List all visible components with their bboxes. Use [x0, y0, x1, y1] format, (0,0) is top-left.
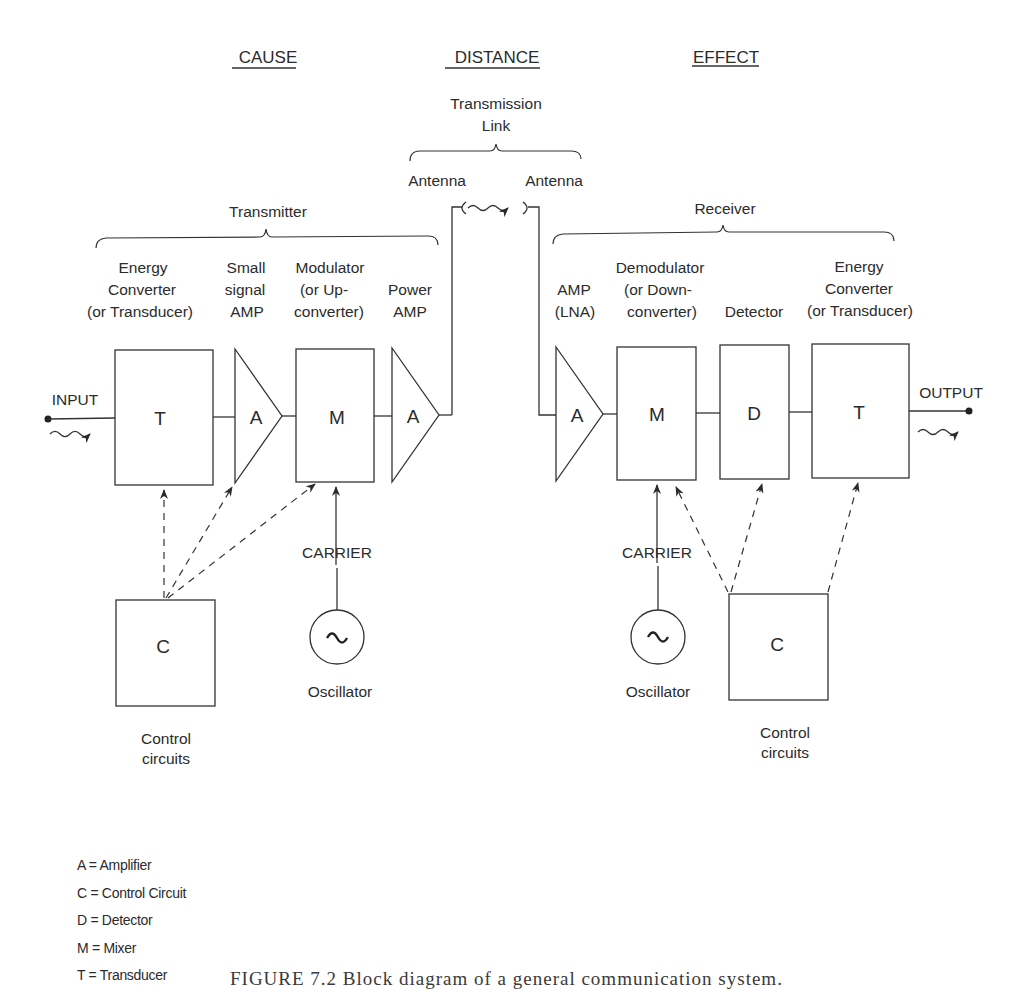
rx-control-symbol: C [770, 634, 784, 655]
transmitter: Transmitter Energy Converter (or Transdu… [45, 203, 453, 767]
tx-power-amp-symbol: A [407, 406, 420, 427]
wireless-wave-icon [468, 206, 508, 211]
rx-transducer-symbol: T [853, 402, 865, 423]
rx-control-label-line2: circuits [761, 744, 809, 761]
transmitter-brace [96, 229, 438, 248]
legend: A = Amplifier C = Control Circuit D = De… [77, 852, 186, 990]
rx-amp-line1: AMP [557, 281, 591, 298]
antenna-left-label: Antenna [408, 172, 466, 189]
output-wave-icon [918, 430, 958, 435]
tx-mixer-symbol: M [329, 407, 345, 428]
rx-demodulator-line3: converter) [627, 303, 697, 320]
tx-small-amp-line1: Small [227, 259, 266, 276]
antenna-left-icon [462, 202, 466, 214]
receiver: Receiver AMP (LNA) Demodulator (or Down-… [553, 200, 983, 761]
tx-energy-converter-line2: Converter [108, 281, 176, 298]
antenna-right-icon [523, 202, 527, 214]
transmission-link: Transmission Link Antenna Antenna [408, 95, 583, 415]
rx-oscillator-sine-icon [648, 633, 668, 642]
tx-control-links [164, 484, 315, 598]
tx-power-amp-line1: Power [388, 281, 432, 298]
rx-energy-converter-line2: Converter [825, 280, 893, 297]
tx-modulator-line2: (or Up- [300, 281, 348, 298]
header-effect-label: EFFECT [693, 48, 759, 67]
rx-carrier-text: CARRIER [622, 544, 692, 561]
tx-control-symbol: C [156, 636, 170, 657]
rx-mixer-symbol: M [649, 404, 665, 425]
rx-energy-converter-line3: (or Transducer) [807, 302, 913, 319]
legend-item-transducer: T = Transducer [77, 962, 186, 990]
tx-small-amp-symbol: A [250, 407, 263, 428]
rx-control-links [676, 483, 858, 592]
rx-detector-label: Detector [725, 303, 784, 320]
legend-item-detector: D = Detector [77, 907, 186, 935]
tx-carrier-text: CARRIER [302, 544, 372, 561]
tx-modulator-line3: converter) [294, 303, 364, 320]
input-label: INPUT [52, 391, 99, 408]
receiver-brace [553, 225, 894, 244]
rx-amp-symbol: A [571, 405, 584, 426]
transmission-link-brace [410, 144, 581, 161]
input-wave-icon [50, 432, 90, 437]
receiver-title: Receiver [694, 200, 755, 217]
tx-energy-converter-line3: (or Transducer) [87, 303, 193, 320]
tx-energy-converter-line1: Energy [118, 259, 167, 276]
rx-oscillator-label: Oscillator [626, 683, 691, 700]
header-cause: CAUSE [232, 48, 297, 68]
transmitter-title: Transmitter [229, 203, 307, 220]
rx-control-label-line1: Control [760, 724, 810, 741]
tx-oscillator-sine-icon [327, 634, 347, 643]
tx-small-amp-line3: AMP [230, 303, 264, 320]
legend-item-control-circuit: C = Control Circuit [77, 880, 186, 908]
tx-power-amp-line2: AMP [393, 303, 427, 320]
legend-item-mixer: M = Mixer [77, 935, 186, 963]
transmission-link-title-line1: Transmission [450, 95, 542, 112]
output-terminal-icon [966, 408, 973, 415]
header-cause-label: CAUSE [239, 48, 298, 67]
rx-detector-symbol: D [747, 403, 761, 424]
rx-demodulator-line1: Demodulator [616, 259, 705, 276]
rx-amp-line2: (LNA) [555, 303, 595, 320]
antenna-right-label: Antenna [525, 172, 583, 189]
rx-energy-converter-line1: Energy [834, 258, 883, 275]
tx-control-label-line1: Control [141, 730, 191, 747]
legend-item-amplifier: A = Amplifier [77, 852, 186, 880]
tx-modulator-line1: Modulator [296, 259, 365, 276]
header-distance: DISTANCE [445, 48, 540, 68]
figure-caption: FIGURE 7.2 Block diagram of a general co… [230, 968, 870, 990]
output-label: OUTPUT [919, 384, 983, 401]
tx-small-amp-line2: signal [225, 281, 266, 298]
tx-oscillator-label: Oscillator [308, 683, 373, 700]
tx-transducer-symbol: T [154, 408, 166, 429]
header-distance-label: DISTANCE [455, 48, 540, 67]
tx-control-label-line2: circuits [142, 750, 190, 767]
header-effect: EFFECT [692, 48, 759, 67]
transmission-link-title-line2: Link [482, 117, 511, 134]
rx-demodulator-line2: (or Down- [624, 281, 692, 298]
